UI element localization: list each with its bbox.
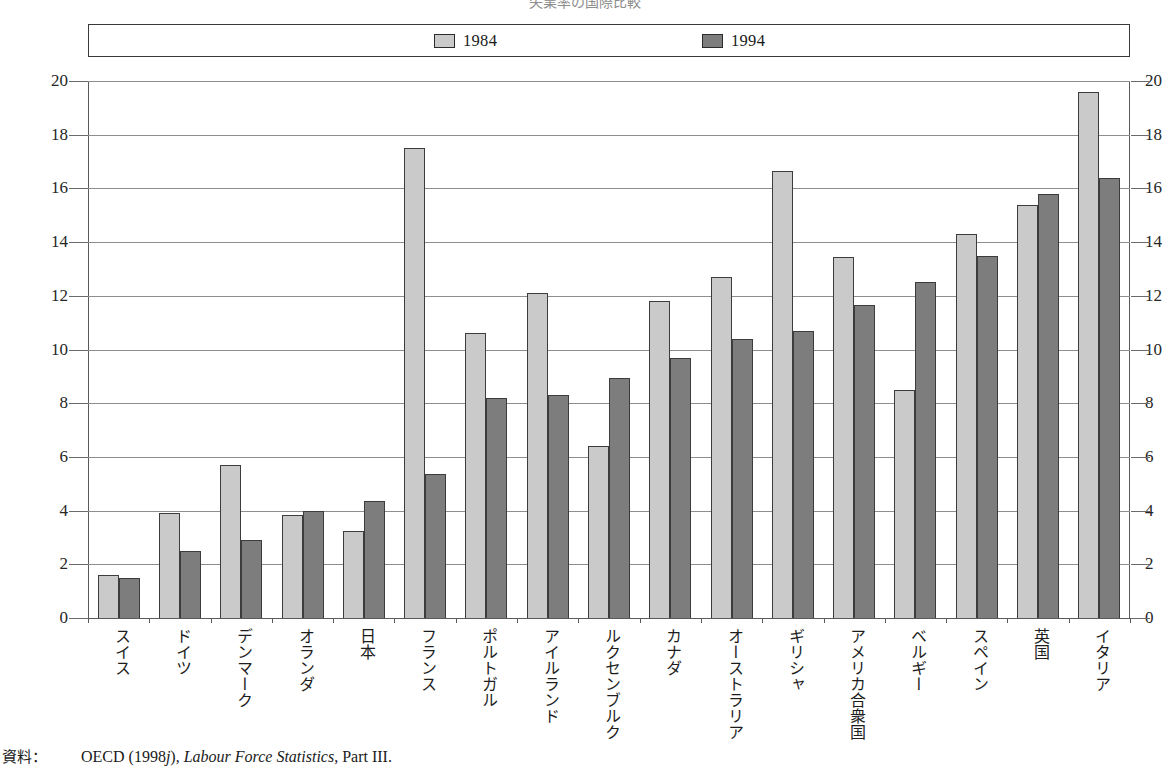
source-part: , Part III. (334, 748, 392, 765)
x-axis-label-11: オーストラリア (722, 628, 742, 740)
bar-group (956, 81, 998, 618)
y-tick-dash-left-14 (69, 242, 88, 243)
x-axis-label-3: デンマーク (231, 628, 251, 708)
bar-1994[interactable] (732, 339, 753, 618)
bar-1994[interactable] (609, 378, 630, 618)
y-tick-dash-left-10 (69, 350, 88, 351)
y-tick-label-left-8: 8 (28, 394, 68, 411)
bar-group (159, 81, 201, 618)
y-tick-dash-right-6 (1131, 457, 1150, 458)
bar-1994[interactable] (548, 395, 569, 618)
x-axis-label-5: 日本 (354, 628, 374, 660)
y-tick-label-left-12: 12 (28, 287, 68, 304)
bar-1994[interactable] (364, 501, 385, 618)
bar-group (282, 81, 324, 618)
x-tick-mark (1007, 618, 1008, 623)
bar-group (711, 81, 753, 618)
x-tick-mark (640, 618, 641, 623)
bar-1994[interactable] (425, 474, 446, 618)
y-tick-label-left-4: 4 (28, 502, 68, 519)
x-tick-mark (517, 618, 518, 623)
bar-1984[interactable] (527, 293, 548, 618)
bar-1984[interactable] (956, 234, 977, 618)
x-axis-label-6: フランス (415, 628, 435, 692)
x-tick-mark (578, 618, 579, 623)
x-axis-label-9: ルクセンブルク (599, 628, 619, 740)
bar-group (649, 81, 691, 618)
x-tick-mark (762, 618, 763, 623)
bar-1984[interactable] (588, 446, 609, 618)
y-tick-label-left-14: 14 (28, 233, 68, 250)
x-axis-label-10: カナダ (660, 628, 680, 676)
chart-plot-wrapper: 0022446688101012121414161618182020スイスドイツ… (0, 0, 1169, 780)
bar-1994[interactable] (486, 398, 507, 618)
y-tick-label-left-10: 10 (28, 341, 68, 358)
bar-group (1017, 81, 1059, 618)
bar-1984[interactable] (404, 148, 425, 618)
bar-group (588, 81, 630, 618)
bar-1984[interactable] (1017, 205, 1038, 618)
bar-1984[interactable] (1078, 92, 1099, 618)
y-tick-dash-right-4 (1131, 511, 1150, 512)
bar-1994[interactable] (303, 511, 324, 618)
bar-1994[interactable] (977, 256, 998, 618)
bar-1994[interactable] (670, 358, 691, 618)
bar-1994[interactable] (241, 540, 262, 618)
y-tick-label-left-6: 6 (28, 448, 68, 465)
y-tick-label-left-2: 2 (28, 555, 68, 572)
y-tick-dash-right-2 (1131, 564, 1150, 565)
y-tick-dash-left-6 (69, 457, 88, 458)
bar-1984[interactable] (282, 515, 303, 618)
y-tick-dash-left-16 (69, 188, 88, 189)
x-axis-label-17: イタリア (1089, 628, 1109, 692)
bar-1984[interactable] (159, 513, 180, 618)
bar-1994[interactable] (180, 551, 201, 618)
bar-1994[interactable] (1099, 178, 1120, 618)
bar-1994[interactable] (915, 282, 936, 618)
x-tick-mark (333, 618, 334, 623)
bar-1984[interactable] (465, 333, 486, 618)
bar-1994[interactable] (793, 331, 814, 618)
bar-1994[interactable] (854, 305, 875, 618)
x-tick-mark (394, 618, 395, 623)
x-axis-label-7: ポルトガル (476, 628, 496, 708)
bar-group (527, 81, 569, 618)
x-axis-label-13: アメリカ合衆国 (844, 628, 864, 740)
chart-plot-area (88, 81, 1130, 618)
x-axis-label-15: スペイン (967, 628, 987, 692)
bar-group (404, 81, 446, 618)
bar-group (465, 81, 507, 618)
bar-1984[interactable] (98, 575, 119, 618)
bar-group (220, 81, 262, 618)
x-tick-mark (1069, 618, 1070, 623)
bar-1984[interactable] (220, 465, 241, 618)
bar-1984[interactable] (772, 171, 793, 618)
bar-1994[interactable] (1038, 194, 1059, 618)
x-tick-mark (885, 618, 886, 623)
bar-group (98, 81, 140, 618)
bar-1994[interactable] (119, 578, 140, 618)
bar-1984[interactable] (711, 277, 732, 618)
x-tick-mark (946, 618, 947, 623)
gridline-0 (88, 618, 1130, 619)
x-tick-mark-origin (88, 618, 89, 623)
y-tick-dash-left-12 (69, 296, 88, 297)
y-tick-dash-right-18 (1131, 135, 1150, 136)
x-axis-label-12: ギリシャ (783, 628, 803, 692)
bar-1984[interactable] (833, 257, 854, 618)
y-tick-dash-left-0 (69, 618, 88, 619)
y-tick-dash-right-0 (1131, 618, 1150, 619)
bar-1984[interactable] (649, 301, 670, 618)
y-tick-dash-left-20 (69, 81, 88, 82)
y-tick-dash-left-18 (69, 135, 88, 136)
bar-1984[interactable] (894, 390, 915, 618)
bar-group (343, 81, 385, 618)
y-tick-dash-right-20 (1131, 81, 1150, 82)
y-tick-label-left-18: 18 (28, 126, 68, 143)
x-axis-label-16: 英国 (1028, 628, 1048, 660)
y-tick-dash-right-12 (1131, 296, 1150, 297)
y-tick-dash-left-2 (69, 564, 88, 565)
y-tick-dash-right-10 (1131, 350, 1150, 351)
bar-1984[interactable] (343, 531, 364, 618)
x-axis-label-1: スイス (109, 628, 129, 676)
